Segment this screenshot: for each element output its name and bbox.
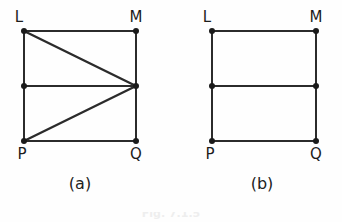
vertex-dot-m xyxy=(133,28,139,34)
vertex-dot-s xyxy=(313,83,319,89)
vertex-label-l: L xyxy=(203,8,212,26)
vertex-label-m: M xyxy=(130,8,143,26)
vertex-dot-s xyxy=(133,83,139,89)
figure-background xyxy=(0,0,342,222)
panel-b-caption: (b) xyxy=(251,174,274,193)
vertex-dot-q xyxy=(133,138,139,144)
vertex-dot-m xyxy=(313,28,319,34)
vertex-label-l: L xyxy=(15,8,24,26)
vertex-dot-r xyxy=(21,83,27,89)
vertex-label-q: Q xyxy=(130,145,142,163)
vertex-label-m: M xyxy=(310,8,323,26)
vertex-label-p: P xyxy=(205,145,214,163)
vertex-dot-p xyxy=(209,138,215,144)
vertex-dot-p xyxy=(21,138,27,144)
vertex-dot-q xyxy=(313,138,319,144)
figure-page: { "figure": { "background_color": "#fefe… xyxy=(0,0,342,222)
vertex-dot-r xyxy=(209,83,215,89)
geometry-figure-canvas: LMPQ(a)LMPQ(b) xyxy=(0,0,342,222)
vertex-label-q: Q xyxy=(310,145,322,163)
vertex-dot-l xyxy=(21,28,27,34)
panel-a-caption: (a) xyxy=(69,174,91,193)
vertex-dot-l xyxy=(209,28,215,34)
vertex-label-p: P xyxy=(17,145,26,163)
